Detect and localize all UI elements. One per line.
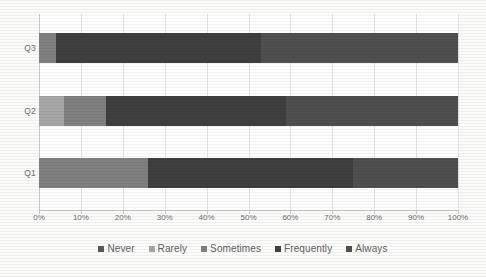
plot-area <box>39 14 458 210</box>
legend-swatch-always-icon <box>346 246 352 252</box>
legend-swatch-sometimes-icon <box>201 246 207 252</box>
bar-segment-q1-always[interactable] <box>353 158 458 188</box>
legend-label: Rarely <box>158 243 188 254</box>
legend-label: Sometimes <box>210 243 261 254</box>
bar-segment-q1-frequently[interactable] <box>148 158 353 188</box>
x-axis-label-20: 20% <box>115 213 131 222</box>
x-axis-label-100: 100% <box>448 213 468 222</box>
x-axis-label-40: 40% <box>199 213 215 222</box>
bar-row-q2[interactable] <box>39 96 458 126</box>
bar-segment-q3-frequently[interactable] <box>56 33 261 63</box>
legend-item-never[interactable]: Never <box>98 243 134 254</box>
legend-item-sometimes[interactable]: Sometimes <box>201 243 261 254</box>
legend-item-always[interactable]: Always <box>346 243 387 254</box>
y-axis-label-q2: Q2 <box>10 106 36 116</box>
x-axis-label-50: 50% <box>240 213 256 222</box>
x-axis-label-80: 80% <box>366 213 382 222</box>
x-axis-label-30: 30% <box>157 213 173 222</box>
x-axis-label-90: 90% <box>408 213 424 222</box>
legend-item-frequently[interactable]: Frequently <box>275 243 332 254</box>
x-axis-label-60: 60% <box>282 213 298 222</box>
legend-label: Frequently <box>284 243 332 254</box>
legend-label: Never <box>107 243 134 254</box>
chart-legend: NeverRarelySometimesFrequentlyAlways <box>0 243 486 254</box>
bar-segment-q2-frequently[interactable] <box>106 96 286 126</box>
bar-segment-q3-sometimes[interactable] <box>39 33 56 63</box>
legend-swatch-never-icon <box>98 246 104 252</box>
legend-swatch-rarely-icon <box>149 246 155 252</box>
legend-label: Always <box>355 243 387 254</box>
x-axis-label-10: 10% <box>73 213 89 222</box>
bar-row-q1[interactable] <box>39 158 458 188</box>
gridline-100 <box>458 14 459 210</box>
y-axis-label-q3: Q3 <box>10 43 36 53</box>
bar-segment-q2-rarely[interactable] <box>39 96 64 126</box>
bar-segment-q3-always[interactable] <box>261 33 458 63</box>
bar-segment-q2-sometimes[interactable] <box>64 96 106 126</box>
x-axis-label-0: 0% <box>33 213 45 222</box>
bar-segment-q1-sometimes[interactable] <box>39 158 148 188</box>
y-axis-label-q1: Q1 <box>10 168 36 178</box>
bar-row-q3[interactable] <box>39 33 458 63</box>
bar-segment-q2-always[interactable] <box>286 96 458 126</box>
legend-item-rarely[interactable]: Rarely <box>149 243 188 254</box>
x-axis-label-70: 70% <box>324 213 340 222</box>
legend-swatch-frequently-icon <box>275 246 281 252</box>
chart-container: Q3Q2Q1 0%10%20%30%40%50%60%70%80%90%100%… <box>0 0 486 277</box>
